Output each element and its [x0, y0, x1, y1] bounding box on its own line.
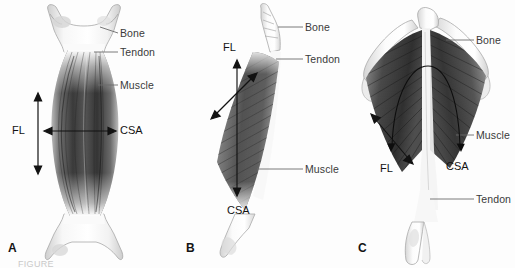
panel-a-fusiform: Bone Tendon Muscle FL CSA A: [0, 0, 175, 268]
cut-off-caption: FIGURE: [18, 259, 54, 268]
label-bone: Bone: [120, 28, 145, 39]
fl-arrow: [371, 114, 413, 164]
label-tendon: Tendon: [305, 54, 340, 65]
panel-letter-a: A: [8, 242, 17, 254]
figure-muscle-architecture: Bone Tendon Muscle FL CSA A: [0, 0, 515, 268]
measure-csa: CSA: [120, 125, 143, 136]
leader-bone: [100, 27, 118, 33]
panel-b-unipennate: Bone Tendon Muscle FL CSA B: [175, 0, 350, 268]
panel-a-annotations: [0, 0, 175, 268]
panel-letter-c: C: [358, 242, 367, 254]
label-bone: Bone: [476, 35, 501, 46]
csa-curve: [392, 66, 460, 146]
csa-arrow: [233, 60, 240, 196]
measure-fl: FL: [223, 42, 236, 53]
label-muscle: Muscle: [305, 164, 339, 175]
label-bone: Bone: [305, 22, 330, 33]
measure-csa: CSA: [446, 161, 469, 172]
panel-b-annotations: [175, 0, 350, 268]
fl-arrow: [211, 73, 257, 119]
measure-fl: FL: [12, 125, 25, 136]
label-muscle: Muscle: [476, 130, 510, 141]
label-tendon: Tendon: [476, 194, 511, 205]
panel-c-bipennate: Bone Muscle Tendon FL CSA C: [350, 0, 515, 268]
csa-arrow: [44, 127, 116, 134]
label-tendon: Tendon: [120, 47, 155, 58]
measure-fl: FL: [380, 163, 393, 174]
label-muscle: Muscle: [120, 80, 154, 91]
measure-csa: CSA: [227, 205, 250, 216]
panel-letter-b: B: [186, 242, 195, 254]
fl-arrow: [34, 93, 41, 174]
